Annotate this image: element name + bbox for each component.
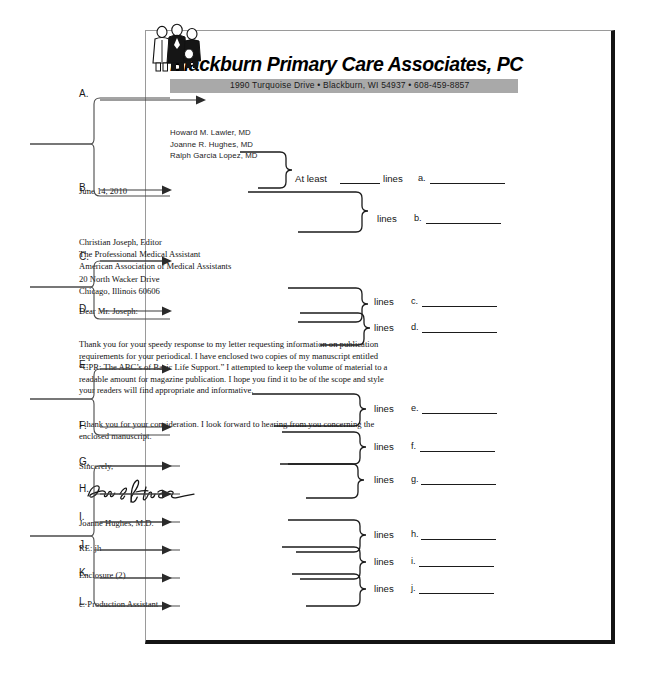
leader-arrow-f (100, 419, 190, 435)
leader-arrow-b (100, 182, 180, 198)
spacing-brace-b (248, 190, 388, 235)
answer-letter-e: e. (411, 403, 419, 413)
leader-arrow-d (100, 303, 190, 319)
people-clipart-icon (148, 23, 206, 71)
answer-blank-c[interactable] (422, 306, 497, 307)
answer-letter-i: i. (411, 556, 416, 566)
answer-blank-h[interactable] (421, 539, 496, 540)
answer-letter-g: g. (411, 474, 419, 484)
lines-label-d: lines (374, 322, 394, 333)
leader-group-gl (30, 460, 230, 612)
lines-label-b: lines (377, 213, 397, 224)
answer-letter-d: d. (411, 322, 419, 332)
lines-label-i: lines (374, 556, 394, 567)
lines-label-a: lines (383, 173, 403, 184)
lines-label-h: lines (374, 529, 394, 540)
answer-blank-a[interactable] (430, 183, 505, 184)
at-least-label: At least (295, 173, 327, 184)
answer-letter-h: h. (411, 529, 419, 539)
answer-blank-e[interactable] (422, 413, 497, 414)
answer-blank-b[interactable] (426, 223, 501, 224)
lines-label-e: lines (374, 403, 394, 414)
answer-letter-j: j. (411, 583, 416, 593)
answer-blank-i[interactable] (419, 566, 494, 567)
answer-blank-j[interactable] (419, 593, 494, 594)
inside-address-line: Christian Joseph, Editor (79, 236, 379, 248)
lines-label-j: lines (374, 583, 394, 594)
lines-label-c: lines (374, 296, 394, 307)
spacing-brace-a (240, 150, 360, 190)
answer-blank-f[interactable] (420, 451, 495, 452)
leader-arrow-k (100, 570, 190, 586)
answer-blank-d[interactable] (422, 332, 497, 333)
company-name: Blackburn Primary Care Associates, PC (170, 53, 585, 76)
leader-arrow-l (100, 598, 190, 614)
letterhead: Blackburn Primary Care Associates, PC 19… (170, 53, 585, 93)
leader-arrow-e (100, 361, 190, 377)
leader-arrow-h (100, 486, 190, 502)
address-bar: 1990 Turquoise Drive • Blackburn, WI 549… (170, 79, 518, 93)
answer-blank-g[interactable] (421, 484, 496, 485)
answer-letter-b: b. (414, 213, 422, 223)
leader-arrow-g (100, 458, 190, 474)
worksheet-canvas: Blackburn Primary Care Associates, PC 19… (0, 0, 651, 674)
answer-letter-c: c. (411, 296, 418, 306)
leader-arrow-j (100, 542, 190, 558)
at-least-blank[interactable] (340, 183, 380, 184)
leader-arrow-c (100, 253, 190, 269)
lines-label-f: lines (374, 441, 394, 452)
answer-letter-f: f. (411, 441, 416, 451)
lines-label-g: lines (374, 474, 394, 485)
leader-arrow-a (100, 92, 210, 108)
answer-letter-a: a. (418, 173, 426, 183)
leader-arrow-i (100, 514, 190, 530)
address-bar-text: 1990 Turquoise Drive • Blackburn, WI 549… (230, 80, 469, 90)
